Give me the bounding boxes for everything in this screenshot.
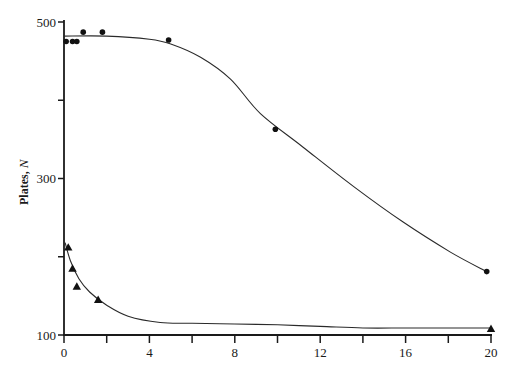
circle-data-point: [273, 126, 279, 132]
x-tick-label: 4: [146, 345, 153, 360]
y-tick-label: 300: [37, 171, 57, 186]
circle-data-point: [166, 37, 172, 43]
circle-data-point: [74, 39, 80, 45]
x-tick-label: 16: [399, 345, 413, 360]
y-tick-label: 100: [37, 328, 57, 343]
data-points: [63, 29, 495, 332]
x-ticks: 048121620: [61, 335, 498, 360]
circle-data-point: [80, 29, 86, 35]
triangle-data-point: [68, 264, 76, 271]
x-tick-label: 12: [314, 345, 327, 360]
y-axis-label-symbol: N: [16, 158, 31, 169]
y-axis-label: Plates, N: [16, 158, 31, 205]
axes: 100300500 048121620: [37, 15, 498, 361]
fit-curves: [64, 36, 491, 328]
triangle-data-point: [73, 282, 81, 289]
y-tick-label: 500: [37, 15, 57, 30]
circles-fit-curve: [64, 36, 487, 272]
circle-data-point: [100, 29, 106, 35]
circle-data-point: [63, 39, 69, 45]
y-axis-label-text: Plates,: [17, 168, 31, 205]
y-ticks: 100300500: [37, 15, 65, 343]
circle-data-point: [484, 269, 490, 275]
x-tick-label: 8: [232, 345, 239, 360]
x-tick-label: 20: [485, 345, 498, 360]
triangles-fit-curve: [65, 243, 491, 328]
x-tick-label: 0: [61, 345, 68, 360]
chart: 100300500 048121620 Plates, N: [0, 0, 510, 380]
